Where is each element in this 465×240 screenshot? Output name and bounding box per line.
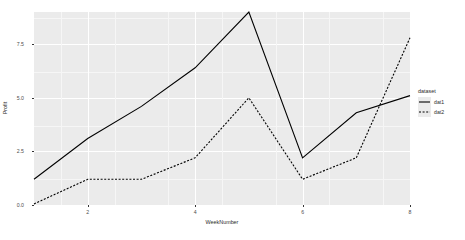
- y-tick-label-2.5: 2.5: [17, 148, 24, 154]
- series-layer: [34, 12, 410, 205]
- y-tick-mark-0.0: [32, 205, 34, 206]
- x-tick-mark-2: [88, 205, 89, 207]
- y-tick-mark-5.0: [32, 98, 34, 99]
- legend-item-dat1[interactable]: dat1: [418, 97, 464, 107]
- x-tick-label-4: 4: [194, 209, 197, 215]
- x-tick-label-6: 6: [301, 209, 304, 215]
- y-axis-labels: 7.5 5.0 2.5 0.0: [0, 0, 30, 240]
- legend: dataset dat1 dat2: [418, 88, 464, 117]
- legend-label-dat2: dat2: [434, 109, 444, 115]
- y-tick-mark-7.5: [32, 44, 34, 45]
- y-tick-label-5.0: 5.0: [17, 95, 24, 101]
- chart-container: 7.5 5.0 2.5 0.0 2 4 6 8 WeekNumber Profi…: [0, 0, 465, 240]
- gridline-major-x-8: [410, 12, 411, 205]
- x-tick-mark-8: [410, 205, 411, 207]
- legend-key-solid-icon: [418, 97, 431, 107]
- legend-key-dashed-icon: [418, 107, 431, 117]
- x-axis-title: WeekNumber: [34, 219, 410, 225]
- gridline-major-y-0.0: [34, 205, 410, 206]
- y-tick-label-7.5: 7.5: [17, 41, 24, 47]
- y-axis-title: Profit: [2, 102, 8, 115]
- x-tick-mark-6: [303, 205, 304, 207]
- x-tick-label-8: 8: [409, 209, 412, 215]
- x-tick-mark-4: [195, 205, 196, 207]
- legend-label-dat1: dat1: [434, 99, 444, 105]
- legend-item-dat2[interactable]: dat2: [418, 107, 464, 117]
- series-line-dat1: [34, 12, 410, 179]
- y-tick-mark-2.5: [32, 151, 34, 152]
- x-tick-label-2: 2: [86, 209, 89, 215]
- plot-panel: [34, 12, 410, 205]
- y-tick-label-0.0: 0.0: [17, 202, 24, 208]
- legend-title: dataset: [418, 88, 464, 94]
- series-line-dat2: [34, 38, 410, 204]
